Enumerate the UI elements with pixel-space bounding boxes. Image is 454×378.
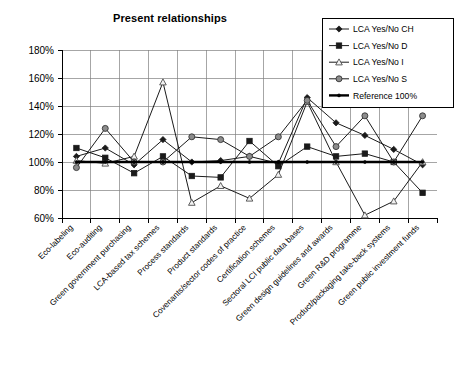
- data-point-marker: [160, 154, 165, 159]
- data-point-marker: [362, 212, 369, 218]
- legend-entry-label: LCA Yes/No S: [353, 74, 407, 84]
- y-axis-tick-label: 120%: [28, 129, 54, 140]
- data-series: [74, 138, 426, 195]
- data-point-marker: [363, 161, 366, 164]
- data-point-marker: [218, 175, 223, 180]
- data-point-marker: [275, 171, 282, 177]
- data-point-marker: [160, 79, 167, 85]
- y-axis-tick-label: 100%: [28, 157, 54, 168]
- data-point-marker: [161, 161, 164, 164]
- data-point-marker: [247, 138, 252, 143]
- x-axis-category-label: Process standards: [136, 223, 190, 277]
- data-point-marker: [362, 132, 368, 138]
- data-point-marker: [248, 161, 251, 164]
- data-point-marker: [104, 161, 107, 164]
- data-point-marker: [190, 161, 193, 164]
- data-point-marker: [335, 161, 338, 164]
- data-point-marker: [102, 145, 108, 151]
- data-point-marker: [73, 165, 79, 171]
- data-point-marker: [218, 137, 224, 143]
- data-point-marker: [420, 113, 426, 119]
- data-point-marker: [275, 134, 281, 140]
- data-point-marker: [391, 146, 397, 152]
- series-line: [76, 141, 422, 193]
- y-axis-ticks: [58, 50, 62, 218]
- data-point-marker: [336, 76, 342, 82]
- chart-figure: Present relationships 180%160%140%120%10…: [0, 0, 454, 378]
- y-axis-tick-label: 140%: [28, 101, 54, 112]
- chart-canvas: 180%160%140%120%100%80%60% Eco-labelingE…: [0, 0, 454, 378]
- legend-entry-label: LCA Yes/No CH: [353, 24, 414, 34]
- data-point-marker: [219, 161, 222, 164]
- legend-entry-label: LCA Yes/No I: [353, 57, 404, 67]
- data-point-marker: [420, 190, 425, 195]
- data-point-marker: [304, 144, 309, 149]
- y-axis-tick-label: 60%: [34, 213, 54, 224]
- x-axis-category-label: Product standards: [166, 223, 219, 276]
- data-point-marker: [336, 43, 341, 48]
- data-point-marker: [392, 161, 395, 164]
- y-axis-tick-label: 180%: [28, 45, 54, 56]
- data-series: [75, 161, 424, 164]
- y-axis-tick-label: 80%: [34, 185, 54, 196]
- data-point-marker: [304, 97, 310, 103]
- data-point-marker: [421, 161, 424, 164]
- data-point-marker: [189, 199, 196, 205]
- data-point-marker: [217, 183, 224, 189]
- data-point-marker: [306, 161, 309, 164]
- data-point-marker: [338, 94, 341, 97]
- x-axis-category-labels: Eco-labelingEco-auditingGreen government…: [37, 223, 421, 327]
- data-point-marker: [74, 145, 79, 150]
- legend-entry-label: LCA Yes/No D: [353, 41, 407, 51]
- data-point-marker: [75, 161, 78, 164]
- data-point-marker: [131, 153, 138, 159]
- data-point-marker: [362, 113, 368, 119]
- data-point-marker: [189, 173, 194, 178]
- chart-legend: LCA Yes/No CHLCA Yes/No DLCA Yes/No ILCA…: [322, 18, 453, 107]
- y-axis-tick-labels: 180%160%140%120%100%80%60%: [28, 45, 54, 224]
- data-point-marker: [276, 164, 281, 169]
- legend-entry-label: Reference 100%: [353, 91, 417, 101]
- data-point-marker: [247, 153, 253, 159]
- data-point-marker: [102, 125, 108, 131]
- y-axis-tick-label: 160%: [28, 73, 54, 84]
- data-point-marker: [131, 171, 136, 176]
- data-point-marker: [362, 151, 367, 156]
- data-point-marker: [277, 161, 280, 164]
- data-point-marker: [133, 161, 136, 164]
- data-point-marker: [333, 144, 339, 150]
- data-point-marker: [189, 134, 195, 140]
- x-axis-ticks: [62, 218, 437, 223]
